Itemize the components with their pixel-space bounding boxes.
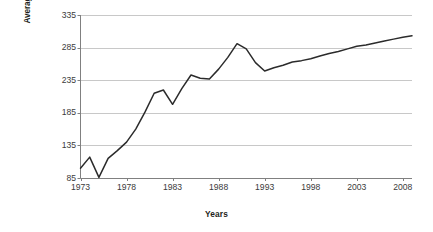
x-axis-tick-label: 1988: [199, 183, 239, 192]
x-axis-tick-label: 1973: [61, 183, 101, 192]
x-axis-tick-label: 1983: [153, 183, 193, 192]
data-series-line: [81, 36, 413, 177]
x-axis-tick-label: 1978: [107, 183, 147, 192]
x-axis-tick-label: 1993: [245, 183, 285, 192]
plot-area: [0, 0, 433, 232]
x-axis-tick-label: 1998: [291, 183, 331, 192]
x-axis-title: Years: [0, 209, 433, 219]
x-axis-tick-label: 2008: [383, 183, 423, 192]
x-axis-tick-label: 2003: [337, 183, 377, 192]
chart-container: Average price of grapes per kg (100=1973…: [0, 0, 433, 232]
gridlines: [78, 16, 413, 179]
